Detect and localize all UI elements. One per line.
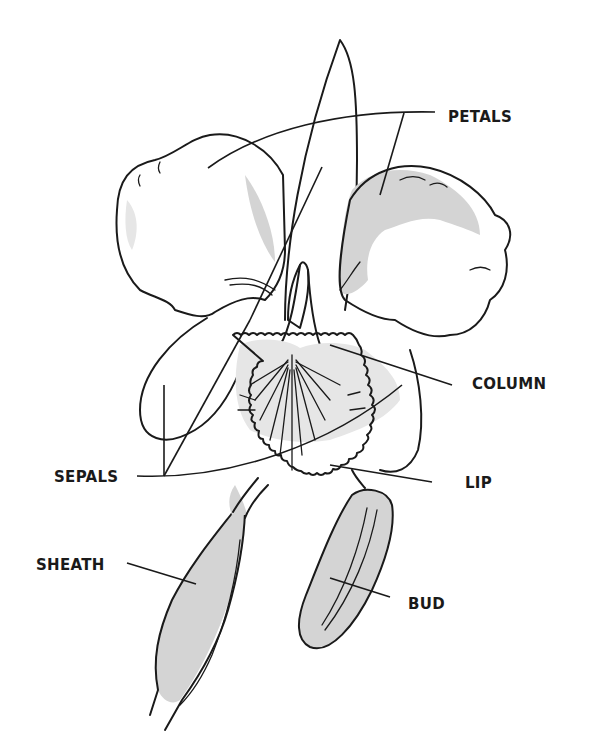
label-petals: PETALS bbox=[448, 108, 512, 126]
sheath-leader bbox=[127, 563, 196, 584]
bud-shape bbox=[299, 470, 393, 648]
sheath-shape bbox=[150, 478, 268, 730]
label-sepals: SEPALS bbox=[54, 468, 118, 486]
lip-leader bbox=[330, 465, 432, 482]
label-column: COLUMN bbox=[472, 375, 546, 393]
right-petal bbox=[340, 166, 511, 336]
label-bud: BUD bbox=[408, 595, 445, 613]
left-petal bbox=[117, 134, 285, 316]
left-lower-sepal bbox=[140, 318, 240, 440]
label-lip: LIP bbox=[465, 474, 492, 492]
orchid-diagram: PETALS COLUMN SEPALS LIP SHEATH BUD bbox=[0, 0, 597, 741]
petals-leader bbox=[208, 112, 435, 168]
lip-shape bbox=[233, 333, 400, 475]
label-sheath: SHEATH bbox=[36, 556, 105, 574]
